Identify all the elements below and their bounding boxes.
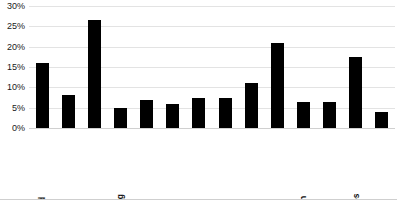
bar-slot	[29, 6, 55, 128]
bar	[271, 43, 284, 128]
x-axis-tick: Retail	[160, 128, 186, 200]
bar-slot	[81, 6, 107, 128]
x-axis-tick-label-text: Financial	[247, 180, 257, 200]
x-axis-tick: Manufacturing	[107, 128, 133, 200]
x-axis-tick-label: Financial	[247, 180, 252, 200]
x-axis-tick: Educ & health	[290, 128, 316, 200]
x-axis-tick: Wholesale	[134, 128, 160, 200]
bar	[114, 108, 127, 128]
x-axis-tick: Financial	[238, 128, 264, 200]
bar-slot	[369, 6, 395, 128]
y-axis: 30%25%20%15%10%5%0%	[0, 0, 27, 128]
x-axis-tick-label-text: Mining	[64, 180, 74, 200]
x-axis-tick-label: Educ & health	[299, 180, 304, 200]
x-axis-tick: Prof & bus services	[264, 128, 290, 200]
bar-slot	[186, 6, 212, 128]
x-axis-tick-label: Other services	[351, 180, 356, 200]
bar	[219, 98, 232, 129]
bar-slot	[317, 6, 343, 128]
x-axis-tick-label: Trans & utilities	[185, 180, 199, 200]
x-axis-tick-label: Construction	[90, 180, 95, 200]
bar-slot	[212, 6, 238, 128]
x-axis-tick: Agri & related	[29, 128, 55, 200]
x-axis-tick-label: Agri & related	[38, 180, 43, 200]
x-axis-tick-label: Manufacturing	[116, 180, 121, 200]
x-axis-tick-label-text: Public admin	[377, 180, 387, 200]
x-axis-tick-label: Retail	[168, 180, 173, 200]
bar-series	[29, 6, 395, 128]
x-axis-tick: Leisure & hospitality	[317, 128, 343, 200]
x-axis-tick-label-text: Wholesale	[142, 180, 152, 200]
bar-slot	[343, 6, 369, 128]
x-axis: Agri & relatedMiningConstructionManufact…	[29, 128, 395, 200]
y-axis-tick-label: 15%	[7, 63, 25, 72]
x-axis-tick-label-text: Information	[221, 180, 231, 200]
bar-slot	[160, 6, 186, 128]
x-axis-tick-label: Information	[221, 180, 226, 200]
x-axis-tick-label: Public admin	[377, 180, 382, 200]
x-axis-tick-label-text: Educ & health	[299, 180, 309, 200]
bar	[297, 102, 310, 128]
bar-slot	[55, 6, 81, 128]
x-axis-tick-label-text: Construction	[90, 180, 100, 200]
x-axis-tick-label-text: Trans & utilities	[185, 180, 204, 200]
x-axis-tick-label: Prof & bus services	[263, 180, 277, 200]
bar-chart-figure: 30%25%20%15%10%5%0% Agri & relatedMining…	[0, 0, 397, 200]
y-axis-tick-label: 0%	[12, 124, 25, 133]
x-axis-tick: Public admin	[369, 128, 395, 200]
bar-slot	[290, 6, 316, 128]
x-axis-tick-label-text: Agri & related	[38, 180, 48, 200]
x-axis-tick-label: Wholesale	[142, 180, 147, 200]
x-axis-tick-label: Mining	[64, 180, 69, 200]
x-axis-tick-label: Leisure & hospitality	[316, 180, 330, 200]
bar	[88, 20, 101, 128]
x-axis-tick-label-text: Manufacturing	[116, 180, 126, 200]
bar-slot	[238, 6, 264, 128]
x-axis-tick: Trans & utilities	[186, 128, 212, 200]
x-axis-tick-label-text: Leisure & hospitality	[316, 180, 335, 200]
x-axis-tick: Construction	[81, 128, 107, 200]
bar-slot	[107, 6, 133, 128]
x-axis-tick: Information	[212, 128, 238, 200]
bar-slot	[134, 6, 160, 128]
bar-slot	[264, 6, 290, 128]
y-axis-tick-label: 5%	[12, 104, 25, 113]
figure-bottom-edge	[0, 199, 397, 200]
bar	[140, 100, 153, 128]
bar	[323, 102, 336, 128]
bar	[245, 83, 258, 128]
x-axis-tick: Other services	[343, 128, 369, 200]
bar	[36, 63, 49, 128]
y-axis-tick-label: 30%	[7, 2, 25, 11]
bar	[192, 98, 205, 129]
x-axis-tick: Mining	[55, 128, 81, 200]
x-axis-tick-label-text: Retail	[168, 180, 178, 200]
x-axis-tick-label-text: Other services	[351, 180, 361, 200]
plot-area	[29, 6, 395, 128]
bar	[349, 57, 362, 128]
bar	[62, 95, 75, 128]
x-axis-tick-label-text: Prof & bus services	[263, 180, 282, 200]
y-axis-tick-label: 10%	[7, 83, 25, 92]
bar	[375, 112, 388, 128]
y-axis-tick-label: 20%	[7, 43, 25, 52]
y-axis-tick-label: 25%	[7, 22, 25, 31]
bar	[166, 104, 179, 128]
chart-title	[0, 0, 397, 5]
